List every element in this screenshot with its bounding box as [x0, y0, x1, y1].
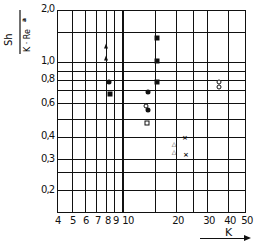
grid-line-v	[85, 10, 86, 213]
data-point-circle-filled	[146, 108, 151, 113]
x-tick-label: 8	[105, 215, 111, 226]
x-tick-label: 40	[224, 215, 236, 226]
data-point-cross: ×	[182, 135, 188, 142]
data-point-triangle-open: △	[172, 141, 177, 147]
data-point-circle-open	[217, 85, 222, 90]
data-point-circle-filled	[107, 80, 112, 85]
grid-line-v	[106, 10, 107, 213]
grid-line-v	[193, 10, 194, 213]
grid-line-v	[207, 10, 208, 213]
arrow-head-icon	[244, 235, 251, 241]
y-tick-label: 1,0	[30, 55, 54, 66]
x-tick-label: 6	[83, 215, 89, 226]
data-point-triangle-filled	[104, 56, 108, 61]
grid-line-v	[96, 10, 97, 213]
x-tick-label: 4	[55, 215, 61, 226]
y-tick-label: 0,2	[30, 184, 54, 195]
x-tick-label: 7	[95, 215, 101, 226]
data-point-triangle-filled	[104, 44, 108, 49]
svg-text:Sh: Sh	[3, 33, 14, 46]
y-tick-label: 0,4	[30, 130, 54, 141]
x-tick-label: 30	[203, 215, 215, 226]
x-axis-arrow	[200, 238, 246, 239]
data-point-circle-filled	[146, 90, 151, 95]
x-tick-label: 50	[241, 215, 253, 226]
x-tick-label: 5	[70, 215, 76, 226]
data-point-cross: ×	[183, 152, 189, 159]
svg-text:K · Re: K · Re	[23, 29, 32, 52]
x-tick-label: 9	[113, 215, 119, 226]
data-point-square-open	[145, 121, 150, 126]
grid-line-v	[72, 10, 73, 213]
data-point-square-filled	[155, 80, 160, 85]
y-tick-label: 0,6	[30, 97, 54, 108]
x-tick-label: 10	[122, 215, 134, 226]
data-point-square-filled	[108, 92, 113, 97]
grid-line-v	[122, 10, 124, 213]
data-point-square-filled	[155, 59, 160, 64]
y-tick-label: 0,8	[30, 73, 54, 84]
y-tick-label: 0,3	[30, 153, 54, 164]
grid-line-v	[176, 10, 177, 213]
x-tick-label: 20	[172, 215, 184, 226]
data-point-triangle-open: △	[172, 149, 177, 155]
svg-text:a: a	[20, 18, 27, 22]
y-tick-label: 2,0	[30, 3, 54, 14]
grid-line-v	[114, 10, 115, 213]
grid-line-v	[228, 10, 229, 213]
data-point-square-filled	[155, 36, 160, 41]
